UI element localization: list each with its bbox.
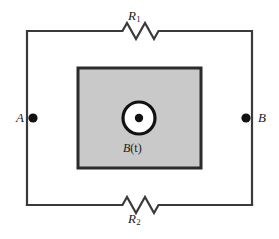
terminal-a-label: A xyxy=(16,111,24,124)
circuit-diagram-figure: R1 R2 A B B(t) xyxy=(0,0,279,239)
magnetic-field-label-argument: (t) xyxy=(130,141,141,155)
resistor-r1-label-text: R xyxy=(128,8,136,23)
field-out-of-page-symbol xyxy=(123,102,155,134)
magnetic-field-label: B(t) xyxy=(123,142,142,154)
field-center-dot xyxy=(135,114,143,122)
circuit-diagram-canvas xyxy=(0,0,279,239)
resistor-r1-symbol xyxy=(118,23,162,39)
resistor-r2-label-text: R xyxy=(128,211,136,226)
terminal-b-dot xyxy=(241,113,250,122)
resistor-r1-label: R1 xyxy=(128,9,140,22)
terminal-b-label: B xyxy=(258,111,266,124)
resistor-r1-label-subscript: 1 xyxy=(136,14,140,24)
resistor-r2-label-subscript: 2 xyxy=(136,217,140,227)
resistor-r2-symbol xyxy=(118,197,162,213)
terminal-a-dot xyxy=(28,113,37,122)
resistor-r2-label: R2 xyxy=(128,212,140,225)
